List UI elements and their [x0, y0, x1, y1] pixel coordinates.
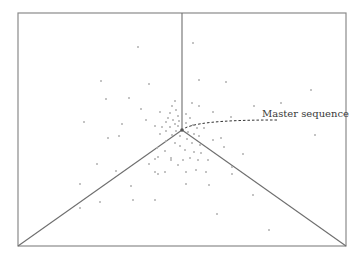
mutant-point: [177, 115, 179, 117]
mutant-point: [198, 79, 200, 81]
mutant-point: [185, 113, 187, 115]
mutant-point: [154, 158, 156, 160]
mutant-point: [179, 135, 181, 137]
mutant-point: [79, 207, 81, 209]
mutant-point: [156, 147, 158, 149]
mutant-point: [203, 127, 205, 129]
mutant-point: [220, 137, 222, 139]
master-sequence-pointer: [185, 120, 277, 128]
mutant-point: [216, 213, 218, 215]
mutant-point: [230, 116, 232, 118]
mutant-point: [189, 117, 191, 119]
mutant-point: [154, 171, 156, 173]
mutant-point: [128, 97, 130, 99]
mutant-point: [207, 159, 209, 161]
mutant-point: [208, 184, 210, 186]
mutant-point: [132, 199, 134, 201]
mutant-point: [171, 105, 173, 107]
mutant-point: [280, 102, 282, 104]
mutant-point: [185, 122, 187, 124]
mutant-point: [225, 81, 227, 83]
mutant-point: [165, 140, 167, 142]
mutant-point: [105, 98, 107, 100]
mutant-point: [212, 111, 214, 113]
mutant-point: [154, 199, 156, 201]
mutant-point: [310, 89, 312, 91]
mutant-point: [164, 171, 166, 173]
mutant-point: [198, 135, 200, 137]
mutant-point: [159, 133, 161, 135]
mutant-point: [161, 126, 163, 128]
mutant-point: [199, 144, 201, 146]
mutant-point: [177, 125, 179, 127]
mutant-point: [223, 146, 225, 148]
mutant-point: [175, 109, 177, 111]
mutant-point: [154, 125, 156, 127]
mutant-point: [175, 130, 177, 132]
mutant-point: [268, 229, 270, 231]
mutant-point: [193, 133, 195, 135]
mutant-point: [170, 157, 172, 159]
mutant-point: [187, 131, 189, 133]
mutant-point: [157, 156, 159, 158]
mutant-point: [99, 201, 101, 203]
mutant-point: [191, 102, 193, 104]
mutant-point: [148, 163, 150, 165]
mutant-point: [242, 153, 244, 155]
mutant-point: [252, 194, 254, 196]
mutant-point: [171, 134, 173, 136]
mutant-point: [253, 105, 255, 107]
mutant-point: [130, 185, 132, 187]
mutant-point: [193, 151, 195, 153]
master-sequence-marker: [180, 128, 184, 132]
mutant-point: [192, 42, 194, 44]
mutant-point: [212, 139, 214, 141]
mutant-point: [198, 105, 200, 107]
mutant-point: [107, 137, 109, 139]
mutant-point: [185, 171, 187, 173]
mutant-point: [100, 80, 102, 82]
axis-bottom-right: [182, 130, 346, 246]
mutant-point: [170, 159, 172, 161]
mutant-point: [191, 142, 193, 144]
mutant-point: [157, 173, 159, 175]
mutant-point: [314, 134, 316, 136]
mutant-point: [79, 183, 81, 185]
mutant-point: [197, 159, 199, 161]
mutant-point: [177, 164, 179, 166]
mutant-point: [184, 149, 186, 151]
mutant-point: [205, 171, 207, 173]
mutant-point: [182, 159, 184, 161]
quasispecies-diagram: [0, 0, 360, 256]
mutant-point: [172, 119, 174, 121]
mutant-point: [115, 170, 117, 172]
mutant-point: [185, 183, 187, 185]
mutant-point: [196, 127, 198, 129]
mutant-point: [121, 123, 123, 125]
mutant-point: [83, 121, 85, 123]
mutant-point: [159, 111, 161, 113]
mutant-point: [174, 142, 176, 144]
mutant-point: [167, 117, 169, 119]
mutant-point: [96, 163, 98, 165]
mutant-point: [195, 169, 197, 171]
mutant-point: [165, 121, 167, 123]
mutant-point: [169, 126, 171, 128]
mutant-point: [164, 150, 166, 152]
mutant-point: [189, 157, 191, 159]
mutant-point: [231, 166, 233, 168]
mutant-point: [118, 135, 120, 137]
master-sequence-label: Master sequence: [262, 108, 349, 119]
mutant-point: [200, 152, 202, 154]
mutant-point: [145, 119, 147, 121]
mutant-point: [137, 46, 139, 48]
mutant-point: [174, 123, 176, 125]
mutant-point: [178, 120, 180, 122]
mutant-point: [231, 173, 233, 175]
mutant-points: [79, 42, 316, 231]
mutant-point: [140, 108, 142, 110]
mutant-point: [179, 145, 181, 147]
mutant-point: [169, 112, 171, 114]
mutant-point: [148, 83, 150, 85]
mutant-point: [165, 130, 167, 132]
